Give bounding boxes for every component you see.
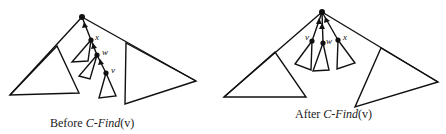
node-v [309, 38, 314, 43]
left-subtree-triangle [224, 52, 306, 97]
label-w: w [326, 36, 332, 46]
left-subtree-triangle [10, 46, 79, 95]
caption-function: C-Find [86, 116, 121, 130]
before-arrows [82, 22, 104, 65]
label-w: w [102, 47, 108, 57]
arrow-icon [316, 18, 322, 24]
caption-arg: (v) [120, 116, 134, 130]
label-v: v [111, 65, 115, 75]
v-subtree-triangle [295, 41, 312, 70]
edge-root-x [82, 17, 91, 40]
caption-prefix: After [295, 107, 323, 121]
node-w [94, 52, 99, 57]
v-subtree-triangle [99, 73, 116, 98]
caption-arg: (v) [358, 107, 372, 121]
caption-function: C-Find [323, 107, 358, 121]
label-x: x [94, 32, 99, 42]
x-subtree-triangle [337, 40, 355, 69]
label-v: v [305, 32, 309, 42]
caption-after: After C-Find(v) [295, 107, 372, 122]
before-tree [10, 17, 196, 104]
caption-prefix: Before [50, 116, 86, 130]
node-w [320, 40, 325, 45]
right-subtree-triangle [125, 43, 196, 104]
after-tree [224, 12, 438, 107]
right-subtree-triangle [355, 48, 438, 107]
diagram-canvas: x w v v w x [0, 0, 446, 134]
root-node [79, 14, 85, 20]
w-subtree-triangle [313, 43, 329, 71]
node-x [88, 37, 93, 42]
caption-before: Before C-Find(v) [50, 116, 134, 131]
node-x [335, 37, 340, 42]
x-subtree-triangle [72, 40, 91, 62]
label-x: x [342, 32, 347, 42]
node-v [103, 70, 108, 75]
root-node [319, 9, 325, 15]
